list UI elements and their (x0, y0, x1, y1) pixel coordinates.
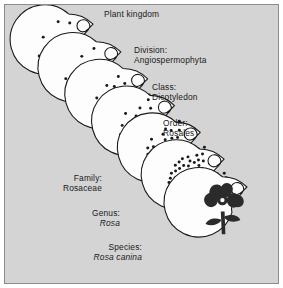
label-division: Division: Angiospermophyta (134, 45, 207, 65)
disc-dot (195, 154, 198, 157)
label-kingdom: Plant kingdom (104, 9, 159, 19)
label-species-line1: Species: (94, 242, 142, 252)
disc-dot (178, 167, 181, 170)
disc-dot (181, 157, 184, 160)
disc-dot (147, 98, 150, 101)
disc-dot (150, 138, 153, 141)
label-kingdom-line1: Plant kingdom (104, 9, 159, 19)
taxonomy-figure: Plant kingdom Division: Angiospermophyta… (0, 0, 283, 288)
label-genus-line1: Genus: (92, 208, 120, 218)
disc-dot (92, 47, 95, 50)
label-family: Family: Rosaceae (63, 173, 102, 193)
disc-dot (170, 172, 173, 175)
label-class: Class: Dicotyledon (152, 82, 198, 102)
disc-dot (138, 106, 141, 109)
disc-dot (197, 158, 200, 161)
disc-dot (197, 164, 200, 167)
disc-dot (123, 82, 126, 85)
disc-dot (124, 112, 127, 115)
label-species-line2: Rosa canina (94, 252, 142, 262)
label-species: Species: Rosa canina (94, 242, 142, 262)
label-family-line2: Rosaceae (63, 183, 102, 193)
disc-dot (186, 155, 189, 158)
disc-dot (105, 84, 108, 87)
label-division-line1: Division: (134, 45, 207, 55)
disc-dot (174, 169, 177, 172)
disc-dot (193, 161, 196, 164)
label-order-line1: Order: (163, 118, 194, 128)
label-genus: Genus: Rosa (92, 208, 120, 228)
disc-dot (80, 55, 83, 58)
disc-dot (42, 36, 45, 39)
disc-dot (203, 146, 206, 149)
disc-dot (146, 147, 149, 150)
disc-dot (64, 77, 67, 80)
disc-dot (57, 20, 60, 23)
disc-dot (68, 21, 71, 24)
disc-dot (178, 161, 181, 164)
disc-dot (169, 177, 172, 180)
disc-dot (117, 75, 120, 78)
label-class-line1: Class: (152, 82, 198, 92)
label-class-line2: Dicotyledon (152, 92, 198, 102)
label-division-line2: Angiospermophyta (134, 55, 207, 65)
disc-dot (202, 159, 205, 162)
label-family-line1: Family: (63, 173, 102, 183)
flower-part (221, 212, 226, 235)
label-order: Order: Rosales (163, 118, 194, 138)
label-genus-line2: Rosa (92, 218, 120, 228)
disc-dot (182, 164, 185, 167)
label-order-line2: Rosales (163, 128, 194, 138)
disc-dot (95, 96, 98, 99)
disc-dot (223, 172, 226, 175)
flower-center-hole (220, 198, 224, 202)
disc-dot (187, 165, 190, 168)
diagram-panel: Plant kingdom Division: Angiospermophyta… (4, 4, 279, 284)
disc-dot (201, 152, 204, 155)
disc-dot (189, 160, 192, 163)
disc-dot (174, 164, 177, 167)
disc-dot (149, 107, 152, 110)
disc-dot (121, 124, 124, 127)
